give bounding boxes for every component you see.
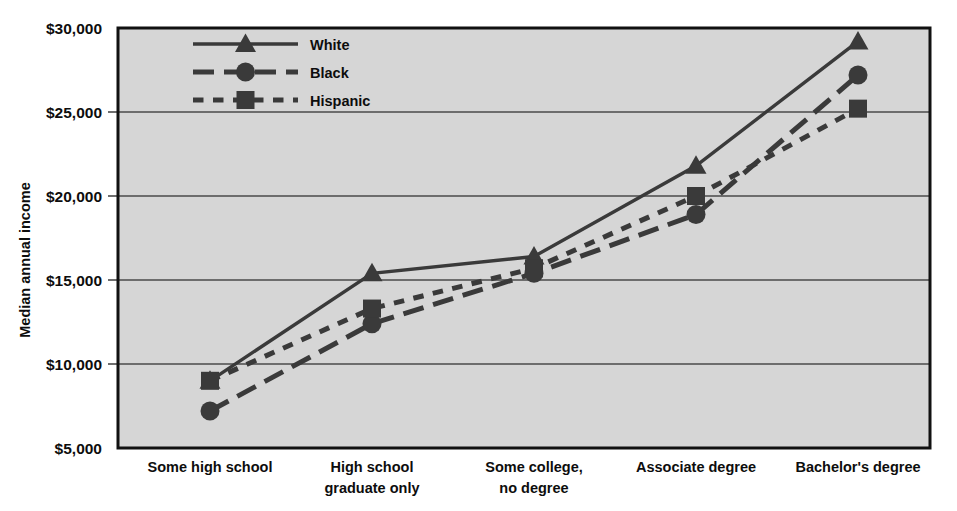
- square-data-marker: [363, 300, 381, 318]
- y-axis-title: Median annual income: [17, 182, 33, 338]
- income-by-education-line-chart: $5,000$10,000$15,000$20,000$25,000$30,00…: [0, 0, 957, 511]
- y-axis-tick-label: $15,000: [46, 272, 102, 289]
- y-axis-tick-label: $25,000: [46, 104, 102, 121]
- y-axis-tick-label: $10,000: [46, 356, 102, 373]
- x-axis-category-label: Some college,no degree: [485, 459, 583, 496]
- x-axis-category-label: High schoolgraduate only: [324, 459, 419, 496]
- x-axis-category-label: Associate degree: [636, 459, 756, 475]
- circle-data-marker: [687, 205, 706, 224]
- x-axis-category-label: Bachelor's degree: [795, 459, 920, 475]
- square-data-marker: [525, 259, 543, 277]
- x-axis-category-label: Some high school: [148, 459, 273, 475]
- legend-label: White: [310, 37, 349, 53]
- circle-data-marker: [201, 402, 220, 421]
- square-data-marker: [237, 91, 255, 109]
- y-axis-tick-label: $30,000: [46, 20, 102, 37]
- y-axis-tick-label: $20,000: [46, 188, 102, 205]
- circle-data-marker: [849, 66, 868, 85]
- square-data-marker: [849, 100, 867, 118]
- y-axis-tick-labels: $5,000$10,000$15,000$20,000$25,000$30,00…: [46, 20, 102, 457]
- y-axis-tick-label: $5,000: [55, 440, 102, 457]
- circle-data-marker: [236, 63, 255, 82]
- square-data-marker: [687, 187, 705, 205]
- square-data-marker: [201, 372, 219, 390]
- legend-label: Hispanic: [310, 93, 370, 109]
- x-axis-tick-labels: Some high schoolHigh schoolgraduate only…: [148, 459, 921, 496]
- chart-container: $5,000$10,000$15,000$20,000$25,000$30,00…: [0, 0, 957, 511]
- legend-label: Black: [310, 65, 350, 81]
